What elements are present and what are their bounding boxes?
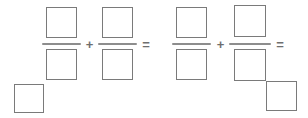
- fraction-3-bar: [172, 43, 211, 45]
- answer-box-left[interactable]: [14, 84, 44, 113]
- fraction-4-bar: [229, 43, 271, 45]
- fraction-3-denominator-box[interactable]: [176, 49, 207, 80]
- fraction-2-numerator-box[interactable]: [102, 7, 133, 38]
- plus-operator-1: +: [84, 38, 95, 51]
- fraction-1-bar: [42, 43, 81, 45]
- equals-operator-1: =: [140, 38, 152, 51]
- plus-operator-2: +: [215, 38, 226, 51]
- fraction-4-numerator-box[interactable]: [234, 5, 266, 37]
- worksheet-canvas: + = + =: [0, 0, 308, 118]
- fraction-2-denominator-box[interactable]: [102, 49, 133, 80]
- equals-operator-2: =: [274, 38, 286, 51]
- fraction-3-numerator-box[interactable]: [176, 7, 207, 38]
- fraction-4-denominator-box[interactable]: [234, 49, 266, 81]
- fraction-1-numerator-box[interactable]: [46, 7, 77, 38]
- fraction-2-bar: [98, 43, 137, 45]
- fraction-1-denominator-box[interactable]: [46, 49, 77, 80]
- answer-box-right[interactable]: [266, 81, 297, 111]
